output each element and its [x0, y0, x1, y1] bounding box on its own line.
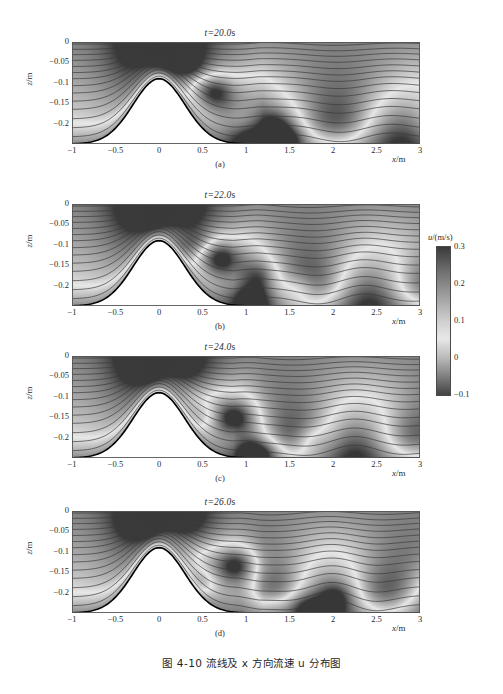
x-tick-label: 0.5	[197, 459, 208, 469]
x-tick-label: 1.5	[284, 459, 295, 469]
x-tick-label: 0	[157, 145, 161, 155]
x-tick-label: 2.5	[371, 307, 382, 317]
y-tick-label: 0	[65, 350, 69, 360]
x-tick-label: −1	[67, 459, 76, 469]
x-tick-label: −1	[67, 145, 76, 155]
x-tick-label: −0.5	[108, 459, 123, 469]
panel-d-xticks: −1−0.500.511.522.53	[72, 614, 420, 628]
colorbar-title: u/(m/s)	[428, 232, 453, 242]
colorbar-gradient	[436, 246, 451, 396]
x-tick-label: 0	[157, 614, 161, 624]
velocity-contour-d	[72, 511, 420, 613]
panel-b-sublabel: (b)	[0, 321, 440, 331]
y-tick-label: −0.15	[49, 566, 69, 576]
x-tick-label: 0	[157, 459, 161, 469]
y-tick-label: −0.15	[49, 259, 69, 269]
y-tick-label: −0.05	[49, 525, 69, 535]
velocity-field-raster	[72, 356, 420, 458]
x-tick-label: 2.5	[371, 459, 382, 469]
y-tick-label: −0.1	[54, 391, 69, 401]
figure-caption: 图 4-10 流线及 x 方向流速 u 分布图	[0, 655, 503, 670]
x-tick-label: 0.5	[197, 145, 208, 155]
colorbar-tick-label: 0.2	[454, 278, 465, 288]
colorbar-tick-label: −0.1	[454, 389, 469, 399]
panel-c-xticks: −1−0.500.511.522.53	[72, 459, 420, 473]
x-tick-label: −1	[67, 307, 76, 317]
y-tick-label: −0.2	[54, 432, 69, 442]
y-tick-label: 0	[65, 36, 69, 46]
y-tick-label: −0.2	[54, 118, 69, 128]
colorbar-tick-label: 0.1	[454, 315, 465, 325]
y-tick-label: −0.2	[54, 280, 69, 290]
x-tick-label: 1.5	[284, 614, 295, 624]
colorbar-tick-label: 0.3	[454, 241, 465, 251]
velocity-contour-a	[72, 42, 420, 144]
figure-4-10: t=20.0s z/m 0−0.05−0.1−0.15−0.2 −1−0.500…	[0, 0, 503, 694]
x-tick-label: 2	[331, 614, 335, 624]
velocity-contour-c	[72, 356, 420, 458]
x-tick-label: 3	[418, 145, 422, 155]
x-tick-label: −0.5	[108, 614, 123, 624]
x-tick-label: −0.5	[108, 307, 123, 317]
x-tick-label: 1	[244, 614, 248, 624]
x-tick-label: 2.5	[371, 145, 382, 155]
y-tick-label: 0	[65, 505, 69, 515]
colorbar-tick-label: 0	[454, 352, 458, 362]
x-tick-label: 3	[418, 614, 422, 624]
y-tick-label: −0.05	[49, 370, 69, 380]
panel-c-yticks: 0−0.05−0.1−0.15−0.2	[28, 356, 69, 458]
panel-d-yticks: 0−0.05−0.1−0.15−0.2	[28, 511, 69, 613]
x-tick-label: 1.5	[284, 145, 295, 155]
panel-a-yticks: 0−0.05−0.1−0.15−0.2	[28, 42, 69, 144]
panel-a-xticks: −1−0.500.511.522.53	[72, 145, 420, 159]
x-tick-label: 1	[244, 459, 248, 469]
x-tick-label: 1	[244, 307, 248, 317]
x-tick-label: 1.5	[284, 307, 295, 317]
panel-b-xticks: −1−0.500.511.522.53	[72, 307, 420, 321]
x-tick-label: 0.5	[197, 614, 208, 624]
velocity-field-raster	[72, 204, 420, 306]
panel-d-plot	[72, 511, 420, 613]
panel-b-yticks: 0−0.05−0.1−0.15−0.2	[28, 204, 69, 306]
x-tick-label: −1	[67, 614, 76, 624]
y-tick-label: −0.1	[54, 546, 69, 556]
x-tick-label: 2.5	[371, 614, 382, 624]
panel-d-sublabel: (d)	[0, 628, 440, 638]
x-tick-label: −0.5	[108, 145, 123, 155]
x-tick-label: 2	[331, 459, 335, 469]
y-tick-label: −0.1	[54, 239, 69, 249]
panel-a-plot	[72, 42, 420, 144]
x-tick-label: 0.5	[197, 307, 208, 317]
y-tick-label: −0.1	[54, 77, 69, 87]
panel-c-plot	[72, 356, 420, 458]
x-tick-label: 2	[331, 145, 335, 155]
x-tick-label: 0	[157, 307, 161, 317]
x-tick-label: 3	[418, 459, 422, 469]
y-tick-label: −0.05	[49, 56, 69, 66]
y-tick-label: −0.15	[49, 97, 69, 107]
panel-b-plot	[72, 204, 420, 306]
colorbar: u/(m/s) 0.30.20.10−0.1	[424, 232, 503, 412]
panel-a-sublabel: (a)	[0, 159, 440, 169]
x-tick-label: 3	[418, 307, 422, 317]
velocity-contour-b	[72, 204, 420, 306]
y-tick-label: 0	[65, 198, 69, 208]
panel-c-sublabel: (c)	[0, 473, 440, 483]
x-tick-label: 1	[244, 145, 248, 155]
y-tick-label: −0.2	[54, 587, 69, 597]
x-tick-label: 2	[331, 307, 335, 317]
y-tick-label: −0.05	[49, 218, 69, 228]
y-tick-label: −0.15	[49, 411, 69, 421]
